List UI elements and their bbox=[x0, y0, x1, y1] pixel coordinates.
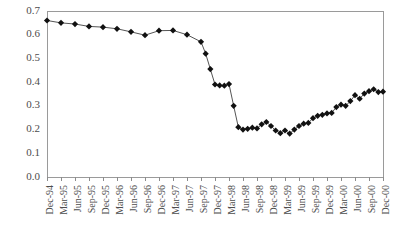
x-tick-label: Jun-96 bbox=[128, 185, 139, 212]
data-point-marker bbox=[142, 32, 148, 38]
y-tick-label: 0.1 bbox=[26, 146, 40, 158]
x-tick-label: Jun-98 bbox=[240, 185, 251, 212]
x-tick-label: Dec-97 bbox=[212, 185, 223, 214]
x-tick-label: Jun-95 bbox=[72, 185, 83, 212]
x-tick-label: Dec-99 bbox=[324, 185, 335, 214]
y-tick-label: 0.6 bbox=[26, 27, 40, 39]
data-point-marker bbox=[212, 81, 218, 87]
data-point-marker bbox=[100, 24, 106, 30]
series-line-path bbox=[47, 20, 383, 133]
data-point-marker bbox=[231, 103, 237, 109]
data-point-marker bbox=[114, 26, 120, 32]
data-point-marker bbox=[170, 27, 176, 33]
x-tick-label: Mar-99 bbox=[282, 185, 293, 215]
data-point-marker bbox=[319, 112, 325, 118]
y-tick-label: 0.7 bbox=[26, 4, 40, 16]
data-point-marker bbox=[86, 23, 92, 29]
data-point-marker bbox=[380, 89, 386, 95]
x-tick-label: Sep-95 bbox=[86, 185, 97, 213]
y-tick-label: 0.3 bbox=[26, 98, 40, 110]
chart-container: 0.70.60.50.40.30.20.10.0 Dec-94Mar-95Jun… bbox=[0, 0, 394, 234]
x-tick-label: Jun-97 bbox=[184, 185, 195, 212]
data-point-marker bbox=[44, 17, 50, 23]
data-point-marker bbox=[72, 21, 78, 27]
data-point-marker bbox=[207, 66, 213, 72]
x-tick-label: Dec-94 bbox=[44, 185, 55, 214]
x-tick-label: Sep-98 bbox=[254, 185, 265, 213]
y-tick-label: 0.0 bbox=[26, 170, 40, 182]
x-tick-label: Sep-99 bbox=[310, 185, 321, 213]
data-point-marker bbox=[128, 29, 134, 35]
data-series bbox=[44, 17, 386, 136]
x-tick-label: Mar-00 bbox=[338, 185, 349, 215]
x-tick-label: Mar-98 bbox=[226, 185, 237, 215]
y-tick-label: 0.5 bbox=[26, 51, 40, 63]
data-point-marker bbox=[58, 20, 64, 26]
y-tick-label: 0.4 bbox=[26, 75, 40, 87]
data-point-marker bbox=[184, 32, 190, 38]
x-tick-label: Dec-96 bbox=[156, 185, 167, 214]
y-axis: 0.70.60.50.40.30.20.10.0 bbox=[26, 4, 47, 182]
line-chart: 0.70.60.50.40.30.20.10.0 Dec-94Mar-95Jun… bbox=[0, 0, 394, 234]
x-tick-label: Jun-00 bbox=[352, 185, 363, 212]
x-tick-label: Dec-00 bbox=[380, 185, 391, 214]
x-tick-label: Sep-00 bbox=[366, 185, 377, 213]
x-tick-label: Dec-98 bbox=[268, 185, 279, 214]
data-point-marker bbox=[198, 39, 204, 45]
x-tick-label: Dec-95 bbox=[100, 185, 111, 214]
x-tick-label: Sep-96 bbox=[142, 185, 153, 213]
y-tick-label: 0.2 bbox=[26, 122, 40, 134]
x-tick-label: Mar-95 bbox=[58, 185, 69, 215]
data-point-marker bbox=[203, 51, 209, 57]
x-tick-label: Sep-97 bbox=[198, 185, 209, 213]
x-tick-label: Mar-97 bbox=[170, 185, 181, 215]
data-point-marker bbox=[156, 28, 162, 34]
x-axis: Dec-94Mar-95Jun-95Sep-95Dec-95Mar-96Jun-… bbox=[44, 11, 391, 215]
data-point-marker bbox=[249, 125, 255, 131]
x-tick-label: Mar-96 bbox=[114, 185, 125, 215]
x-tick-label: Jun-99 bbox=[296, 185, 307, 212]
data-point-marker bbox=[245, 126, 251, 132]
